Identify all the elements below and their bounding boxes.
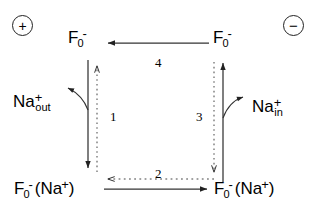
arrow-sodium-release-left xyxy=(68,88,88,110)
negative-polarity-badge: − xyxy=(283,15,304,36)
step-label-1: 1 xyxy=(110,110,117,123)
node-top-right-superscript: - xyxy=(228,26,232,41)
ion-out-symbol: Na xyxy=(13,92,35,111)
ion-label-sodium-out: Na+out xyxy=(13,91,51,113)
node-bottom-left-superscript: - xyxy=(29,177,33,192)
step-label-2: 2 xyxy=(155,167,162,180)
node-top-right: F0- xyxy=(213,27,232,49)
arrow-sodium-uptake-right xyxy=(223,97,243,118)
node-bottom-left-bound-superscript: + xyxy=(61,177,69,192)
reaction-cycle-diagram: + − xyxy=(0,0,318,218)
node-bottom-right-bound-close: ) xyxy=(269,179,275,198)
node-top-left: F0- xyxy=(68,27,87,49)
node-top-left-superscript: - xyxy=(83,26,87,41)
node-bottom-left-bound: (Na xyxy=(35,179,62,198)
step-label-3: 3 xyxy=(196,110,203,123)
ion-out-subscript: out xyxy=(35,101,50,113)
node-bottom-left-bound-close: ) xyxy=(69,179,75,198)
positive-polarity-badge: + xyxy=(12,15,33,36)
ion-in-subscript: in xyxy=(274,106,283,118)
node-bottom-left: F0-(Na+) xyxy=(14,178,75,200)
ion-in-symbol: Na xyxy=(252,97,274,116)
node-bottom-right-superscript: - xyxy=(229,177,233,192)
node-bottom-right-bound: (Na xyxy=(235,179,262,198)
node-bottom-right-bound-superscript: + xyxy=(261,177,269,192)
ion-label-sodium-in: Na+in xyxy=(252,96,283,118)
minus-icon: − xyxy=(284,16,303,35)
step-label-4: 4 xyxy=(155,56,162,69)
node-bottom-right: F0-(Na+) xyxy=(214,178,275,200)
plus-icon: + xyxy=(13,16,32,35)
